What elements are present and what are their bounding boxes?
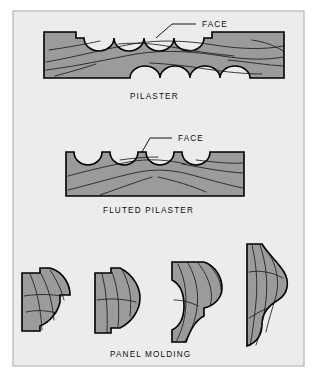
wood-molding-figure: FACE PILASTER FACE FLUTED PILASTER	[0, 0, 317, 378]
figure-canvas: FACE PILASTER FACE FLUTED PILASTER	[0, 0, 317, 378]
pilaster-caption: PILASTER	[130, 92, 179, 101]
pilaster-face-label: FACE	[202, 20, 228, 29]
fluted-face-label: FACE	[178, 134, 204, 143]
fluted-pilaster-caption: FLUTED PILASTER	[103, 206, 194, 215]
panel-molding-caption: PANEL MOLDING	[110, 350, 191, 359]
